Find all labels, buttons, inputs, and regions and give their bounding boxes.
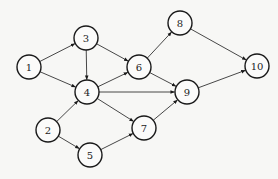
node-8: 8 — [168, 11, 192, 35]
node-3: 3 — [74, 26, 98, 50]
node-label: 9 — [184, 87, 190, 98]
node-label: 7 — [141, 123, 147, 134]
node-6: 6 — [127, 55, 151, 79]
edge-6-to-9 — [150, 73, 176, 87]
node-9: 9 — [175, 80, 199, 104]
edge-1-to-4 — [40, 72, 76, 87]
node-label: 2 — [45, 125, 51, 136]
node-4: 4 — [75, 80, 99, 104]
node-label: 1 — [26, 62, 32, 73]
edge-4-to-6 — [98, 72, 128, 86]
edge-2-to-4 — [57, 101, 78, 122]
node-1: 1 — [17, 55, 41, 79]
edge-5-to-7 — [101, 134, 133, 150]
node-7: 7 — [132, 116, 156, 140]
node-5: 5 — [78, 143, 102, 167]
node-label: 3 — [83, 33, 89, 44]
node-10: 10 — [245, 54, 269, 78]
node-label: 6 — [136, 62, 142, 73]
node-label: 10 — [251, 61, 264, 72]
node-2: 2 — [36, 118, 60, 142]
edge-6-to-8 — [147, 32, 171, 58]
edge-3-to-6 — [97, 44, 129, 61]
graph-diagram: 12345678910 — [0, 0, 278, 179]
edge-3-to-4 — [86, 50, 87, 80]
edge-2-to-5 — [58, 136, 79, 148]
edge-7-to-9 — [153, 100, 177, 120]
edge-9-to-10 — [198, 70, 245, 87]
edge-1-to-3 — [40, 44, 75, 62]
node-label: 8 — [177, 18, 183, 29]
node-label: 4 — [84, 87, 90, 98]
edge-8-to-10 — [190, 29, 246, 60]
nodes-layer: 12345678910 — [17, 11, 269, 167]
node-label: 5 — [87, 150, 93, 161]
graph-svg: 12345678910 — [0, 0, 278, 179]
edge-4-to-7 — [97, 98, 133, 121]
